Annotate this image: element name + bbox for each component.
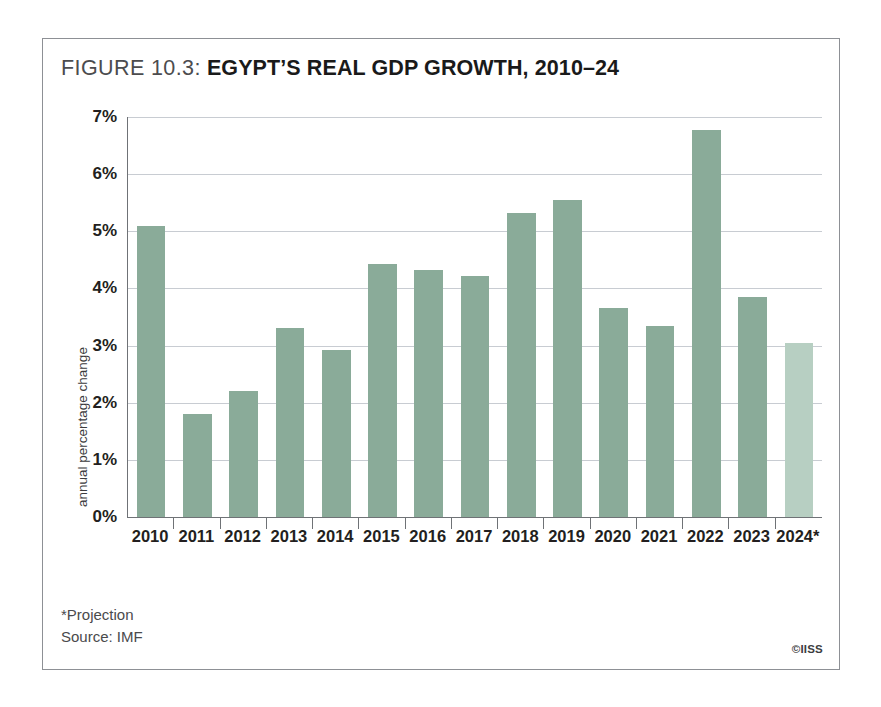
bar-2023: [738, 297, 767, 517]
bar-2014: [322, 350, 351, 517]
bar-slot: [313, 117, 359, 517]
bar-slot: [729, 117, 775, 517]
x-axis-tick-label: 2019: [543, 527, 589, 557]
x-axis-tick-label: 2022: [682, 527, 728, 557]
bar-slot: [544, 117, 590, 517]
x-axis-tick-label: 2018: [497, 527, 543, 557]
y-axis-tick-label: 2%: [92, 393, 117, 413]
bar-slot: [406, 117, 452, 517]
bar-2020: [599, 308, 628, 517]
bar-chart: annual percentage change 0%1%2%3%4%5%6%7…: [61, 117, 823, 552]
bar-2012: [229, 391, 258, 517]
bar-slot: [359, 117, 405, 517]
bar-2011: [183, 414, 212, 517]
bar-slot: [683, 117, 729, 517]
bar-2022: [692, 130, 721, 517]
y-axis-tick-labels: 0%1%2%3%4%5%6%7%: [77, 117, 123, 517]
figure-frame: FIGURE 10.3: EGYPT’S REAL GDP GROWTH, 20…: [42, 38, 840, 670]
x-axis-tick-labels: 2010201120122013201420152016201720182019…: [127, 527, 821, 557]
figure-number: FIGURE 10.3:: [61, 56, 201, 80]
bar-slot: [637, 117, 683, 517]
x-axis-tick-label: 2013: [266, 527, 312, 557]
projection-note: *Projection: [61, 604, 143, 626]
y-axis-tick-label: 1%: [92, 450, 117, 470]
y-axis-tick-label: 4%: [92, 278, 117, 298]
source-note: Source: IMF: [61, 626, 143, 648]
bar-series: [128, 117, 822, 517]
bar-slot: [591, 117, 637, 517]
bar-slot: [128, 117, 174, 517]
bar-slot: [221, 117, 267, 517]
bar-slot: [267, 117, 313, 517]
x-axis-tick-label: 2011: [173, 527, 219, 557]
bar-2024-projection: [785, 343, 814, 517]
plot-area: [127, 117, 822, 518]
y-axis-tick-label: 7%: [92, 107, 117, 127]
y-axis-tick-label: 6%: [92, 164, 117, 184]
y-axis-tick-label: 3%: [92, 336, 117, 356]
bar-2018: [507, 213, 536, 517]
bar-2010: [137, 226, 166, 517]
bar-2017: [461, 276, 490, 517]
x-axis-tick-label: 2015: [358, 527, 404, 557]
x-axis-tick-label: 2024*: [775, 527, 821, 557]
x-axis-tick-label: 2023: [728, 527, 774, 557]
bar-slot: [498, 117, 544, 517]
bar-slot: [776, 117, 822, 517]
bar-slot: [452, 117, 498, 517]
figure-name: EGYPT’S REAL GDP GROWTH, 2010–24: [207, 56, 619, 80]
x-axis-tick-label: 2017: [451, 527, 497, 557]
bar-2019: [553, 200, 582, 517]
bar-2021: [646, 326, 675, 517]
footnotes: *Projection Source: IMF: [61, 604, 143, 648]
page-title: FIGURE 10.3: EGYPT’S REAL GDP GROWTH, 20…: [61, 56, 619, 81]
bar-2013: [276, 328, 305, 517]
copyright-credit: ©IISS: [792, 643, 823, 655]
y-axis-tick-label: 0%: [92, 507, 117, 527]
x-axis-tick-label: 2014: [312, 527, 358, 557]
bar-slot: [174, 117, 220, 517]
x-axis-tick-label: 2012: [220, 527, 266, 557]
x-axis-tick-label: 2021: [636, 527, 682, 557]
x-axis-tick-label: 2016: [405, 527, 451, 557]
bar-2015: [368, 264, 397, 517]
x-axis-tick-label: 2020: [590, 527, 636, 557]
x-axis-tick-label: 2010: [127, 527, 173, 557]
bar-2016: [414, 270, 443, 517]
y-axis-tick-label: 5%: [92, 221, 117, 241]
